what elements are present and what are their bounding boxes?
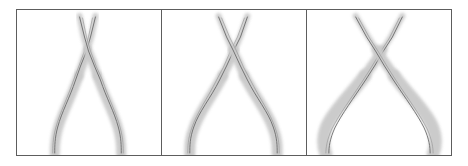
pliers-pivot-joint [365, 56, 395, 63]
panel-1 [17, 10, 161, 155]
panel-2 [161, 10, 306, 155]
pliers-illustration-closed [17, 10, 161, 155]
pliers-illustration-partly-open [162, 10, 306, 155]
pliers-illustration-open [307, 10, 451, 155]
figure-root [0, 0, 468, 166]
pliers-left-arm [323, 16, 402, 154]
pliers-pivot-joint [221, 56, 247, 62]
pliers-right-arm [356, 16, 436, 154]
pliers-right-arm [80, 16, 124, 154]
pliers-left-arm [53, 16, 96, 154]
pliers-pivot-joint [77, 56, 101, 62]
panel-strip [16, 9, 452, 156]
pliers-left-arm [188, 16, 248, 154]
panel-3 [306, 10, 451, 155]
pliers-right-arm [219, 16, 280, 154]
